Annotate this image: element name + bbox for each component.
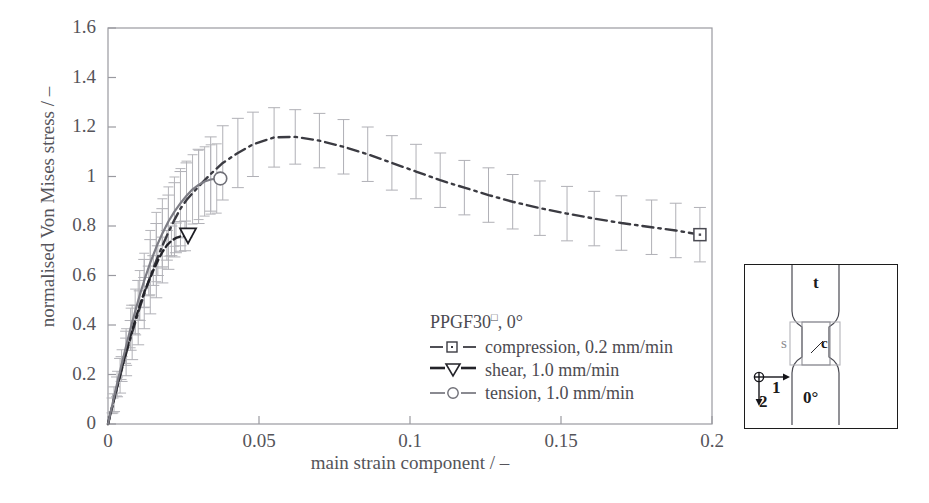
legend-key-triangle-down-icon (430, 360, 476, 380)
legend-title-material: PPGF30 (430, 312, 491, 332)
legend-title-angle: , 0° (498, 312, 523, 332)
legend-title: PPGF30□, 0° (430, 311, 673, 333)
specimen-inset: t 0° s c 1 2 (744, 264, 898, 429)
y-tick-label: 1.6 (28, 16, 96, 38)
legend-item-tension: tension, 1.0 mm/min (430, 381, 673, 404)
x-axis-title: main strain component / – (108, 452, 712, 474)
inset-label-tension: t (813, 273, 819, 293)
legend-label-tension: tension, 1.0 mm/min (485, 384, 634, 402)
legend-title-superscript: □ (491, 311, 498, 323)
x-tick-label: 0.05 (219, 430, 299, 452)
marker-square (694, 229, 706, 241)
legend-item-shear: shear, 1.0 mm/min (430, 358, 673, 381)
legend-label-shear: shear, 1.0 mm/min (485, 361, 619, 379)
x-tick-label: 0.2 (672, 430, 752, 452)
inset-label-shear: s (781, 335, 787, 352)
legend-label-compression: compression, 0.2 mm/min (485, 338, 673, 356)
y-tick-label: 0.2 (28, 363, 96, 385)
gauge-region-box (790, 322, 840, 365)
plot-canvas (0, 0, 730, 503)
x-tick-label: 0.15 (521, 430, 601, 452)
inset-label-orientation: 0° (803, 388, 818, 408)
marker-circle (214, 172, 227, 185)
inset-axis-label-2: 2 (759, 392, 768, 412)
x-tick-label: 0 (68, 430, 148, 452)
legend-item-compression: compression, 0.2 mm/min (430, 335, 673, 358)
y-axis-title: normalised Von Mises stress / – (37, 57, 59, 357)
legend-key-circle-icon (430, 383, 476, 403)
legend: PPGF30□, 0° compression, 0.2 mm/min shea… (430, 311, 673, 404)
figure-root: 00.20.40.60.811.21.41.6 00.050.10.150.2 … (0, 0, 929, 503)
inset-label-compression: c (821, 335, 828, 352)
x-tick-label: 0.1 (370, 430, 450, 452)
chart-panel: 00.20.40.60.811.21.41.6 00.050.10.150.2 … (0, 0, 730, 503)
inset-axis-label-1: 1 (772, 378, 781, 398)
legend-key-square-icon (430, 337, 476, 357)
